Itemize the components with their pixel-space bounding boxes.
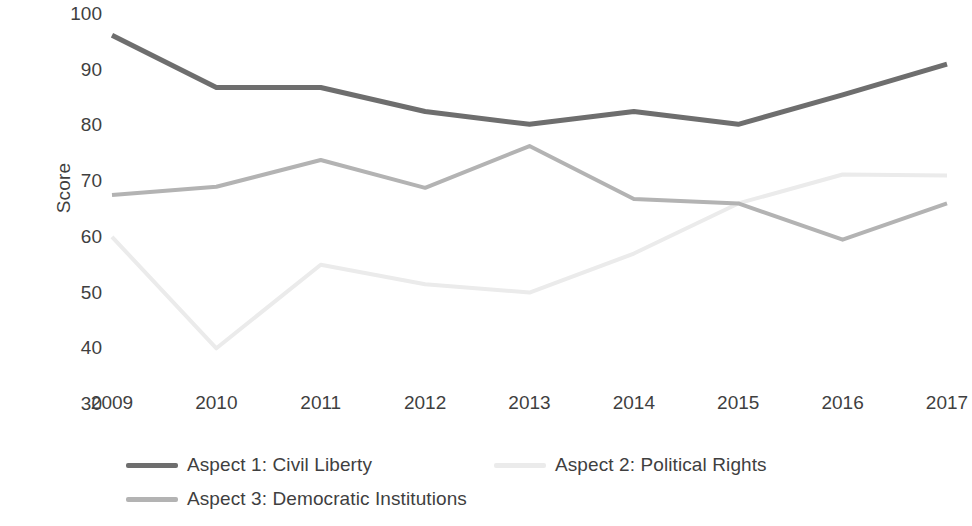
x-axis-tick-label: 2012 [365, 392, 485, 414]
legend-label: Aspect 1: Civil Liberty [187, 454, 372, 476]
series-line [112, 174, 947, 348]
x-axis-tick-label: 2011 [261, 392, 381, 414]
series-line [112, 35, 947, 124]
x-axis-tick-label: 2013 [470, 392, 590, 414]
legend-swatch-icon [126, 497, 178, 502]
x-axis-tick-labels: 200920102011201220132014201520162017 [112, 392, 947, 426]
legend-swatch-icon [126, 463, 178, 468]
legend-label: Aspect 2: Political Rights [555, 454, 767, 476]
legend-swatch-icon [494, 463, 546, 468]
x-axis-tick-label: 2017 [887, 392, 972, 414]
y-axis-tick-label: 100 [46, 3, 102, 25]
y-axis-tick-label: 70 [46, 170, 102, 192]
x-axis-tick-label: 2009 [52, 392, 172, 414]
legend-label: Aspect 3: Democratic Institutions [187, 488, 467, 510]
x-axis-tick-label: 2010 [156, 392, 276, 414]
x-axis-tick-label: 2014 [574, 392, 694, 414]
y-axis-tick-label: 80 [46, 114, 102, 136]
chart-legend: Aspect 1: Civil Liberty Aspect 2: Politi… [0, 448, 961, 518]
y-axis-tick-labels: 10090807060504030 [46, 0, 102, 420]
plot-area [112, 14, 947, 404]
y-axis-tick-label: 40 [46, 337, 102, 359]
y-axis-tick-label: 90 [46, 59, 102, 81]
legend-item-aspect-3[interactable]: Aspect 3: Democratic Institutions [126, 488, 467, 510]
legend-item-aspect-1[interactable]: Aspect 1: Civil Liberty [126, 454, 372, 476]
legend-item-aspect-2[interactable]: Aspect 2: Political Rights [494, 454, 767, 476]
x-axis-tick-label: 2016 [783, 392, 903, 414]
series-line [112, 146, 947, 240]
plot-lines [112, 14, 947, 404]
y-axis-tick-label: 60 [46, 226, 102, 248]
x-axis-tick-label: 2015 [678, 392, 798, 414]
y-axis-tick-label: 50 [46, 282, 102, 304]
